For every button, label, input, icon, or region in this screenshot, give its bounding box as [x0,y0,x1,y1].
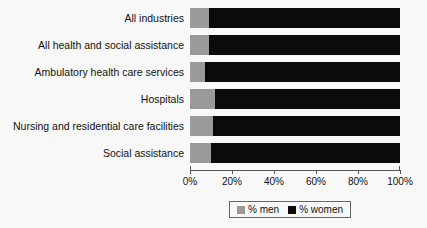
x-axis-tick-label: 60% [306,176,326,187]
legend-item-women: % women [288,204,343,215]
legend-swatch-women-icon [288,206,296,214]
legend-label-women: % women [299,204,343,215]
bar-row [190,62,400,82]
bar-segment-women [209,35,400,55]
x-axis-tick-label: 80% [348,176,368,187]
bar-track [190,62,400,82]
x-axis-tick [190,170,191,174]
bar-segment-women [209,8,400,28]
bar-row [190,89,400,109]
x-axis-tick-label: 40% [264,176,284,187]
x-axis-line [190,170,400,171]
bar-segment-men [190,89,215,109]
bar-segment-women [215,89,400,109]
bar-segment-men [190,62,205,82]
bar-row [190,143,400,163]
category-label-all-health-and-social-assistance: All health and social assistance [0,35,184,55]
legend-item-men: % men [237,204,279,215]
bar-segment-women [213,116,400,136]
category-label-ambulatory-health-care-services: Ambulatory health care services [0,62,184,82]
bar-segment-women [211,143,400,163]
category-label-nursing-and-residential-care-facilities: Nursing and residential care facilities [0,116,184,136]
bar-track [190,35,400,55]
x-axis-tick [274,170,275,174]
x-axis-tick-label: 100% [387,176,413,187]
bar-row [190,35,400,55]
bar-segment-men [190,116,213,136]
bar-track [190,89,400,109]
x-axis-tick-label: 20% [222,176,242,187]
bar-track [190,8,400,28]
bar-track [190,116,400,136]
legend-label-men: % men [248,204,279,215]
category-label-hospitals: Hospitals [0,89,184,109]
category-label-all-industries: All industries [0,8,184,28]
x-axis-tick [232,170,233,174]
x-axis-tick [400,170,401,174]
bar-segment-women [205,62,400,82]
category-axis-labels: All industries All health and social ass… [0,8,184,170]
x-axis-tick [316,170,317,174]
bar-row [190,116,400,136]
x-axis-tick [358,170,359,174]
bar-segment-men [190,35,209,55]
bar-segment-men [190,8,209,28]
stacked-bar-chart: All industries All health and social ass… [0,0,427,228]
bar-track [190,143,400,163]
bar-segment-men [190,143,211,163]
plot-area [190,8,400,170]
legend: % men % women [229,201,351,218]
bar-row [190,8,400,28]
legend-swatch-men-icon [237,206,245,214]
x-axis-tick-label: 0% [183,176,197,187]
category-label-social-assistance: Social assistance [0,143,184,163]
